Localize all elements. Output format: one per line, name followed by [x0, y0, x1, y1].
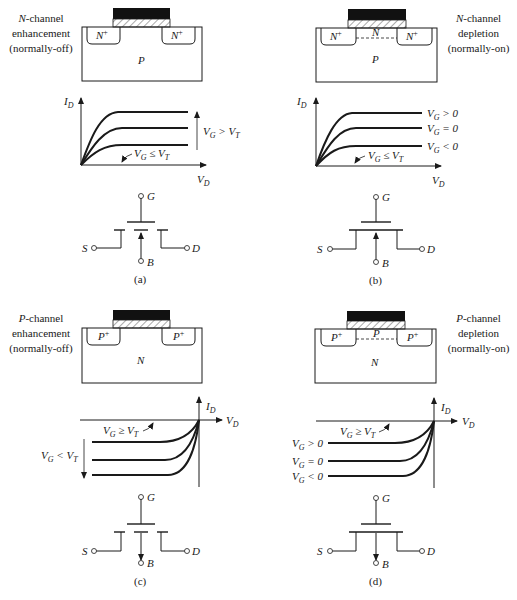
vg-le-vt-pointer — [122, 154, 132, 162]
body-terminal — [139, 561, 144, 566]
panel-c-iv-graph: ID VD VG < VT VG ≥ VT — [41, 397, 239, 487]
panel-c-cross-section: P+ P+ N — [82, 310, 202, 383]
source-label: S — [82, 242, 88, 254]
panel-d: P+ P P+ N ID VD VG > 0 VG = 0 VG < 0 VG … — [292, 311, 475, 588]
source-label: S — [317, 243, 323, 255]
gate-label: G — [382, 492, 390, 504]
x-axis-label: VD — [226, 414, 239, 429]
gate-metal — [347, 311, 405, 321]
y-axis-label: ID — [296, 95, 307, 110]
curve-label-vg-lt-vt: VG < VT — [41, 449, 78, 464]
curve-label-vg-lt-0: VG < 0 — [292, 470, 323, 485]
panel-b-cross-section: N+ N N+ P — [316, 9, 437, 82]
panel-a: N+ N+ P ID VD VG > VT VG ≤ VT G — [63, 8, 240, 286]
curve-label-vg-ge-vt: VG ≥ VT — [103, 424, 139, 439]
vg-ge-vt-pointer — [379, 424, 389, 432]
curve-label-vg-ge-vt: VG ≥ VT — [340, 425, 376, 440]
drain-terminal — [420, 247, 425, 252]
source-region-label: N+ — [329, 29, 342, 42]
body-terminal — [374, 561, 379, 566]
gate-oxide — [113, 320, 170, 328]
panel-b-iv-graph: ID VD VG > 0 VG = 0 VG < 0 VG ≤ VT — [296, 95, 458, 189]
substrate-label: N — [370, 356, 379, 368]
gate-terminal — [374, 496, 379, 501]
panel-a-iv-graph: ID VD VG > VT VG ≤ VT — [63, 95, 240, 188]
panel-b: N+ N N+ P ID VD VG > 0 VG = 0 VG < 0 VG … — [296, 9, 458, 287]
panel-d-iv-graph: ID VD VG > 0 VG = 0 VG < 0 VG ≥ VT — [292, 398, 475, 488]
drain-region-label: P+ — [172, 329, 185, 342]
y-axis-label: ID — [440, 401, 451, 416]
channel-label: P — [372, 327, 380, 339]
vg-ge-vt-pointer — [143, 423, 153, 431]
curve-label-vg-gt-vt: VG > VT — [203, 125, 240, 140]
curve-label-vg-lt-0: VG < 0 — [427, 140, 458, 155]
panel-d-caption: (d) — [369, 575, 382, 588]
substrate-label: P — [371, 53, 379, 65]
drain-region-label: P+ — [406, 330, 419, 343]
panel-c-circuit-symbol: G S D B (c) — [82, 491, 200, 588]
source-terminal — [328, 247, 333, 252]
y-axis-label: ID — [205, 400, 216, 415]
source-region-label: N+ — [95, 28, 108, 41]
panel-b-caption: (b) — [369, 274, 382, 287]
panel-a-cross-section: N+ N+ P — [82, 8, 202, 81]
drain-label: D — [426, 243, 435, 255]
drain-label: D — [191, 545, 200, 557]
source-terminal — [92, 246, 97, 251]
body-terminal — [374, 260, 379, 265]
gate-label: G — [147, 190, 155, 202]
curve-label-vg-gt-0: VG > 0 — [427, 107, 458, 122]
gate-metal — [113, 310, 170, 320]
source-region-label: P+ — [97, 329, 110, 342]
panel-d-circuit-symbol: G S D B (d) — [317, 492, 435, 588]
panel-c-caption: (c) — [134, 575, 147, 588]
panel-a-caption: (a) — [134, 273, 147, 286]
body-label: B — [382, 257, 389, 269]
source-terminal — [328, 549, 333, 554]
curve-label-vg-eq-0: VG = 0 — [292, 455, 323, 470]
gate-label: G — [147, 491, 155, 503]
gate-terminal — [139, 194, 144, 199]
curve-label-vg-eq-0: VG = 0 — [427, 122, 458, 137]
source-region-label: P+ — [330, 330, 343, 343]
curve-label-vg-le-vt: VG ≤ VT — [134, 147, 170, 162]
drain-terminal — [185, 246, 190, 251]
drain-terminal — [420, 549, 425, 554]
panel-a-circuit-symbol: G S D B (a) — [82, 190, 200, 286]
x-axis-label: VD — [432, 174, 445, 189]
body-label: B — [382, 558, 389, 570]
drain-region-label: N+ — [405, 29, 418, 42]
drain-region-label: N+ — [170, 28, 183, 41]
source-label: S — [317, 545, 323, 557]
body-label: B — [147, 256, 154, 268]
x-axis-label: VD — [462, 415, 475, 430]
x-axis-label: VD — [197, 173, 210, 188]
gate-oxide — [113, 19, 170, 27]
panel-b-circuit-symbol: G S D B (b) — [317, 191, 435, 287]
gate-metal — [348, 9, 406, 20]
body-label: B — [147, 557, 154, 569]
drain-terminal — [185, 549, 190, 554]
y-axis-label: ID — [63, 95, 74, 110]
gate-metal — [113, 8, 170, 19]
source-label: S — [82, 545, 88, 557]
gate-terminal — [374, 195, 379, 200]
substrate-label: P — [137, 54, 145, 66]
drain-label: D — [191, 242, 200, 254]
panel-c: P+ P+ N ID VD VG < VT VG ≥ VT G — [41, 310, 239, 588]
vg-le-vt-pointer — [355, 156, 365, 163]
mosfet-diagram: N+ N+ P ID VD VG > VT VG ≤ VT G — [0, 0, 517, 600]
source-terminal — [92, 549, 97, 554]
body-terminal — [139, 259, 144, 264]
panel-d-cross-section: P+ P P+ N — [315, 311, 436, 383]
gate-terminal — [139, 495, 144, 500]
gate-label: G — [382, 191, 390, 203]
substrate-label: N — [136, 354, 145, 366]
curve-label-vg-le-vt: VG ≤ VT — [368, 149, 404, 164]
curve-label-vg-gt-0: VG > 0 — [292, 437, 323, 452]
drain-label: D — [426, 545, 435, 557]
channel-label: N — [371, 26, 380, 38]
